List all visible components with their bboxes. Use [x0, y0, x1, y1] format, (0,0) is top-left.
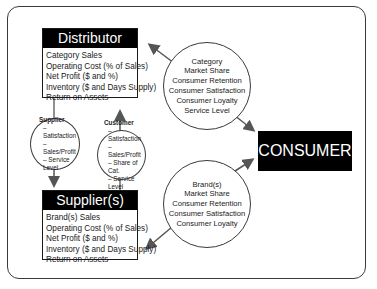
circle-line: Service Level [184, 106, 230, 116]
circle-item: – Sales/Profit [39, 140, 79, 156]
circle-line: Consumer Satisfaction [169, 209, 245, 219]
circle-item: – Satisfaction [39, 124, 79, 140]
circle-item: – Service Level [39, 156, 79, 172]
circle-line: Consumer Retention [172, 199, 242, 209]
circle-line: Consumer Satisfaction [169, 86, 245, 96]
metric: Return on Assets [46, 255, 134, 266]
circle-line: Consumer Loyalty [176, 219, 237, 229]
circle-item: – Service Level [104, 175, 145, 191]
metric: Net Profit ($ and %) [46, 234, 134, 245]
metric: Brand(s) Sales [46, 213, 134, 224]
distributor-box: Distributor Category Sales Operating Cos… [42, 28, 138, 98]
metric: Category Sales [46, 51, 134, 62]
circle-line: Market Share [184, 66, 230, 76]
suppliers-box: Supplier(s) Brand(s) Sales Operating Cos… [42, 190, 138, 260]
circle-item: – Share of Cat. [104, 159, 145, 175]
metric: Return on Assets [46, 93, 134, 104]
category-metrics-circle: Category Market Share Consumer Retention… [163, 42, 251, 130]
metric: Operating Cost (% of Sales) [46, 224, 134, 235]
distributor-metrics: Category Sales Operating Cost (% of Sale… [43, 48, 137, 106]
metric: Net Profit ($ and %) [46, 72, 134, 83]
distributor-title: Distributor [43, 29, 137, 48]
circle-item: – Satisfaction [104, 127, 145, 143]
suppliers-metrics: Brand(s) Sales Operating Cost (% of Sale… [43, 210, 137, 268]
customer-satisfaction-circle: Customer – Satisfaction – Sales/Profit –… [97, 130, 146, 180]
circle-line: Brand(s) [192, 180, 221, 190]
supplier-satisfaction-circle: Supplier – Satisfaction – Sales/Profit –… [30, 118, 80, 170]
circle-item: – Sales/Profit [104, 143, 145, 159]
circle-title: Customer [104, 119, 145, 127]
circle-line: Market Share [184, 189, 230, 199]
circle-line: Category [192, 57, 223, 67]
metric: Inventory ($ and Days Supply) [46, 83, 134, 94]
brand-metrics-circle: Brand(s) Market Share Consumer Retention… [163, 160, 251, 248]
circle-line: Consumer Retention [172, 76, 242, 86]
circle-title: Supplier [39, 116, 79, 124]
metric: Operating Cost (% of Sales) [46, 62, 134, 73]
metric: Inventory ($ and Days Supply) [46, 245, 134, 256]
consumer-box: CONSUMER [258, 131, 352, 171]
suppliers-title: Supplier(s) [43, 191, 137, 210]
circle-line: Consumer Loyalty [176, 96, 237, 106]
